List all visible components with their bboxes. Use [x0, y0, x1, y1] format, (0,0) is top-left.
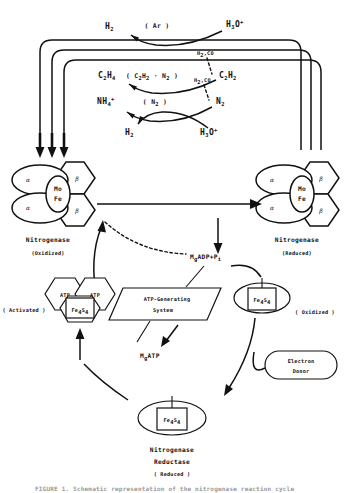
reductase-activated-complex: ATP ATP Fe4S4 ( Activated ): [2, 278, 128, 400]
atp-system-line1: ATP-Generating: [144, 296, 191, 303]
recycle-loop-1: [40, 40, 301, 150]
atp-system-line2: System: [153, 307, 173, 314]
mediator-acetylene-n2: ( C2H2 · N2 ): [126, 72, 178, 81]
nitrogenase-left-name: Nitrogenase: [26, 236, 70, 244]
oxidized-to-reduced-curve: [229, 318, 255, 388]
substrate-recycle-loops: [40, 40, 321, 150]
mg-atp-label: MgATP: [140, 352, 160, 362]
alpha-label-top-left: α: [26, 176, 30, 183]
arrowhead-activation-up: [76, 328, 85, 339]
adp-to-oxidized-curve: [231, 265, 261, 277]
nitrogenase-right-complex: α α β β Mo Fe Nitrogenase (Reduced): [256, 162, 339, 256]
fe-label-right: Fe: [298, 195, 306, 202]
electron-donor-oval: [265, 351, 337, 379]
dashed-feedback-path: [105, 222, 186, 254]
alpha-label-bottom-left: α: [26, 204, 30, 211]
mg-adp-pi-node: MgADP+Pi: [190, 218, 223, 263]
reductase-to-activated-curve: [84, 364, 128, 400]
substrate-c2h2: C2H2: [219, 71, 237, 81]
reductase-activated-state: ( Activated ): [2, 307, 45, 313]
beta-label-top-left: β: [74, 175, 79, 183]
beta-label-bottom-right: β: [318, 207, 323, 215]
mo-label-left: Mo: [54, 185, 62, 192]
electron-donor-node: Electron Donor: [253, 351, 337, 379]
product-h2-row1: H2: [105, 22, 114, 32]
reductase-reduced-name-2: Reductase: [154, 458, 190, 465]
reductase-oxidized-state: ( Oxidized ): [295, 309, 335, 315]
activation-arrows-left: [36, 133, 69, 158]
electron-donor-hook: [253, 352, 265, 370]
arrowhead-thick-3: [60, 147, 69, 158]
mofe-cofactor-right: [290, 176, 314, 212]
substrate-n2: N2: [216, 97, 225, 107]
reaction-arrow-ar: [131, 31, 222, 45]
electron-donor-line2: Donor: [293, 368, 310, 374]
reaction-row-ar: H2 ( Ar ) H3O+: [105, 19, 244, 45]
nitrogenase-cycle-diagram: H2 ( Ar ) H3O+ C2H4 ( C2H2 · N2 ) C2H2 H…: [0, 0, 346, 493]
arrowhead-nh4: [127, 112, 135, 119]
arrowhead-thick-2: [48, 147, 57, 158]
atp-label-right: ATP: [90, 292, 100, 298]
substrate-h3o-row4: H3O+: [200, 127, 218, 138]
adp-into-atp-system-line: [186, 266, 204, 287]
reductase-reduction-path: [224, 318, 255, 396]
adp-feedback-curve: [105, 222, 186, 254]
beta-label-top-right: β: [318, 175, 323, 183]
reductase-reduced-complex: Fe4S4 Nitrogenase Reductase ( Reduced ): [138, 396, 206, 477]
reaction-row-acetylene: C2H4 ( C2H2 · N2 ) C2H2 H2,CO: [98, 50, 237, 93]
nitrogenase-left-complex: α α β β Mo Fe Nitrogenase (Oxidized): [12, 162, 95, 256]
atp-system-parallelogram: [109, 288, 221, 320]
reductase-reduced-name-1: Nitrogenase: [150, 446, 194, 454]
nitrogenase-right-name: Nitrogenase: [275, 236, 319, 244]
alpha-label-top-right: α: [270, 176, 274, 183]
alpha-label-bottom-right: α: [270, 204, 274, 211]
product-c2h4: C2H4: [98, 71, 116, 81]
atp-generating-system: ATP-Generating System: [109, 266, 221, 342]
fe-label-left: Fe: [54, 195, 62, 202]
nitrogenase-right-state: (Reduced): [282, 250, 312, 256]
inhibitor-tick-row3: [204, 85, 209, 100]
product-h2-row4: H2: [125, 128, 134, 138]
reaction-row-dinitrogen: NH4+ ( N2 ) N2 H2,CO: [97, 77, 225, 121]
atp-label-left: ATP: [60, 292, 70, 298]
mofe-cofactor-left: [46, 176, 70, 212]
nitrogenase-left-state: (Oxidized): [31, 250, 64, 256]
atp-system-out-line: [137, 321, 150, 342]
substrate-h3o-row1: H3O+: [226, 19, 244, 30]
electron-donor-line1: Electron: [288, 358, 315, 364]
reductase-reduced-state: ( Reduced ): [154, 471, 191, 477]
inhibitor-h2-co-row2: H2,CO: [197, 50, 214, 58]
mg-atp-incoming-line: [166, 325, 178, 341]
arrowhead-thick-1: [36, 147, 45, 158]
figure-caption: FIGURE 1. Schematic representation of th…: [35, 485, 294, 493]
beta-label-bottom-left: β: [74, 207, 79, 215]
reaction-row-proton: H2 H3O+: [125, 112, 218, 138]
mediator-ar: ( Ar ): [145, 22, 170, 30]
mg-adp-label: MgADP+Pi: [190, 253, 222, 263]
mediator-n2: ( N2 ): [143, 98, 167, 107]
electron-transfer-arrow: [97, 199, 262, 209]
recycle-loop-2: [52, 50, 311, 150]
arrowhead-c2h4: [129, 84, 137, 91]
caption-text: FIGURE 1. Schematic representation of th…: [35, 485, 294, 493]
mg-atp-node: MgATP: [140, 325, 178, 362]
arrowhead-reduction: [224, 384, 233, 396]
mo-label-right: Mo: [298, 185, 306, 192]
product-nh4: NH4+: [97, 96, 115, 108]
reductase-oxidized-complex: Fe4S4 ( Oxidized ): [231, 265, 335, 315]
